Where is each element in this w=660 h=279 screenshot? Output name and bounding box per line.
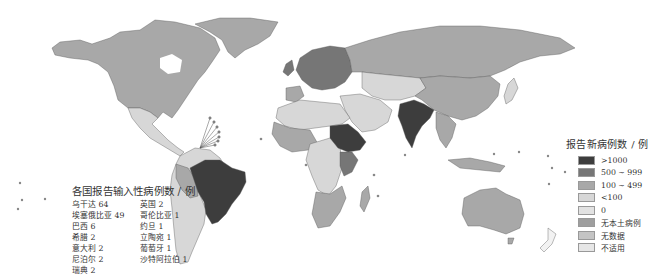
- imported-case-item: 英国 2: [140, 199, 208, 210]
- europe: [296, 46, 352, 90]
- imported-case-item: 瑞典 2: [72, 265, 140, 276]
- legend-swatch: [578, 206, 595, 215]
- legend-title: 报告新病例数 / 例: [566, 136, 649, 151]
- legend-item: 无数据: [578, 229, 649, 242]
- legend-swatch: [578, 243, 595, 252]
- imported-cases-left-column: 乌干达 64 埃塞俄比亚 49 巴西 6 希腊 2 意大利 2 尼泊尔 2 瑞典…: [72, 199, 140, 276]
- legend-item: 不适用: [578, 242, 649, 255]
- legend-swatch: [578, 156, 595, 165]
- legend-item: 0: [578, 204, 649, 217]
- imported-cases-title: 各国报告输入性病例数 / 例: [72, 183, 222, 198]
- imported-case-item: 希腊 2: [72, 232, 140, 243]
- legend-swatch: [578, 231, 595, 240]
- legend-item: 500 ~ 999: [578, 167, 649, 180]
- iberia: [286, 86, 304, 102]
- indonesia: [448, 158, 505, 172]
- legend-label: 0: [601, 206, 606, 215]
- legend-item: >1000: [578, 154, 649, 167]
- imported-case-item: 哥伦比亚 1: [140, 210, 208, 221]
- legend-label: <100: [601, 193, 622, 202]
- imported-case-item: 巴西 6: [72, 221, 140, 232]
- imported-case-item: 乌干达 64: [72, 199, 140, 210]
- legend-swatch: [578, 181, 595, 190]
- legend-label: 不适用: [601, 242, 625, 253]
- legend-label: 500 ~ 999: [601, 168, 642, 177]
- legend-swatch: [578, 218, 595, 227]
- north-america: [52, 20, 220, 118]
- imported-cases-right-column: 英国 2 哥伦比亚 1 约旦 1 立陶宛 1 葡萄牙 1 沙特阿拉伯 1: [140, 199, 208, 276]
- legend-swatch: [578, 193, 595, 202]
- australia: [462, 188, 524, 234]
- imported-case-item: 埃塞俄比亚 49: [72, 210, 140, 221]
- imported-case-item: 葡萄牙 1: [140, 243, 208, 254]
- tasmania: [508, 238, 514, 244]
- legend-label: 无本土病例: [601, 217, 641, 228]
- russia: [345, 26, 575, 78]
- east-africa: [340, 152, 358, 176]
- legend-item: 无本土病例: [578, 217, 649, 230]
- new-zealand: [540, 228, 556, 252]
- legend-item: <100: [578, 192, 649, 205]
- imported-case-item: 立陶宛 1: [140, 232, 208, 243]
- uk: [283, 60, 294, 76]
- central-africa: [306, 138, 342, 196]
- imported-case-item: 意大利 2: [72, 243, 140, 254]
- legend-label: 100 ~ 499: [601, 181, 642, 190]
- legend-swatch: [578, 168, 595, 177]
- legend-item: 100 ~ 499: [578, 179, 649, 192]
- map-legend: 报告新病例数 / 例 >1000 500 ~ 999 100 ~ 499 <10…: [566, 136, 649, 254]
- madagascar: [360, 186, 370, 212]
- imported-case-item: 尼泊尔 2: [72, 254, 140, 265]
- caribbean-callout: [200, 117, 220, 148]
- india: [398, 100, 434, 148]
- imported-cases-panel: 各国报告输入性病例数 / 例 乌干达 64 埃塞俄比亚 49 巴西 6 希腊 2…: [72, 183, 222, 276]
- imported-case-item: 约旦 1: [140, 221, 208, 232]
- legend-label: 无数据: [601, 230, 625, 241]
- imported-case-item: 沙特阿拉伯 1: [140, 254, 208, 265]
- japan: [504, 78, 518, 104]
- legend-label: >1000: [601, 156, 627, 165]
